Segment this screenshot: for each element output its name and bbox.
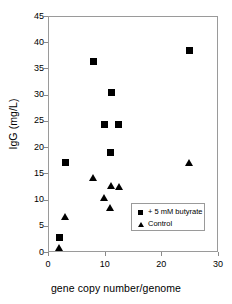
y-tick-label: 0 <box>24 248 44 257</box>
y-tick-mark <box>44 42 48 43</box>
x-tick-mark <box>161 252 162 256</box>
x-axis-title: gene copy number/genome <box>0 282 232 294</box>
y-tick-label: 25 <box>24 116 44 125</box>
scatter-chart-figure: 051015202530354045 0102030 IgG (mg/L) ge… <box>0 0 232 304</box>
y-tick-mark <box>44 16 48 17</box>
legend-label-control: Control <box>148 220 172 228</box>
x-tick-mark <box>218 252 219 256</box>
data-point-square <box>107 149 114 156</box>
legend-label-butyrate: + 5 mM butyrate <box>148 208 202 216</box>
data-point-triangle <box>100 194 108 201</box>
x-tick-mark <box>48 252 49 256</box>
data-point-triangle <box>89 174 97 181</box>
data-point-square <box>115 121 122 128</box>
x-tick-label: 20 <box>149 260 173 269</box>
x-tick-label: 0 <box>36 260 60 269</box>
data-point-triangle <box>61 213 69 220</box>
data-point-square <box>62 159 69 166</box>
legend-triangle-marker-icon <box>136 219 146 229</box>
data-point-square <box>108 89 115 96</box>
y-tick-mark <box>44 173 48 174</box>
y-tick-label: 10 <box>24 195 44 204</box>
y-tick-mark <box>44 68 48 69</box>
y-tick-mark <box>44 226 48 227</box>
data-point-triangle <box>55 244 63 251</box>
legend-item-control: Control <box>136 218 172 230</box>
y-tick-label: 15 <box>24 169 44 178</box>
data-point-square <box>101 121 108 128</box>
data-point-triangle <box>115 183 123 190</box>
chart-legend: + 5 mM butyrate Control <box>131 203 205 231</box>
y-tick-label: 5 <box>24 221 44 230</box>
data-point-square <box>90 58 97 65</box>
y-tick-mark <box>44 147 48 148</box>
y-tick-label: 35 <box>24 64 44 73</box>
data-point-square <box>186 47 193 54</box>
y-tick-mark <box>44 200 48 201</box>
y-axis-title: IgG (mg/L) <box>7 64 19 184</box>
x-tick-mark <box>105 252 106 256</box>
data-point-triangle <box>185 159 193 166</box>
data-point-square <box>56 234 63 241</box>
y-tick-mark <box>44 121 48 122</box>
legend-item-butyrate: + 5 mM butyrate <box>136 206 202 218</box>
x-tick-label: 30 <box>206 260 230 269</box>
y-tick-mark <box>44 95 48 96</box>
data-point-triangle <box>106 204 114 211</box>
legend-square-marker-icon <box>136 207 146 217</box>
y-tick-label: 20 <box>24 143 44 152</box>
y-tick-label: 40 <box>24 38 44 47</box>
x-tick-label: 10 <box>93 260 117 269</box>
y-tick-label: 30 <box>24 90 44 99</box>
y-tick-label: 45 <box>24 12 44 21</box>
